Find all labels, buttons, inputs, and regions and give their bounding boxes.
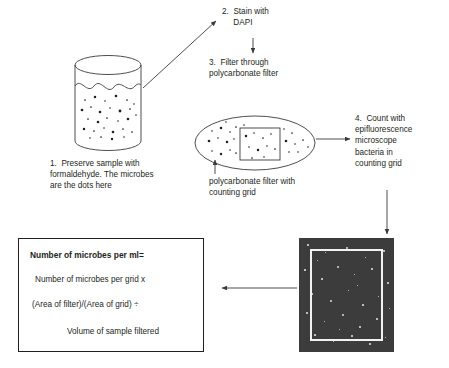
beaker-microbe-dots: [81, 95, 137, 141]
epifluorescence-micrograph: [299, 238, 394, 352]
formula-title: Number of microbes per ml=: [30, 250, 144, 260]
step-1-label: 1. Preserve sample with formaldehyde. Th…: [50, 158, 154, 192]
counting-grid-square: [310, 249, 383, 341]
beaker-illustration: [75, 56, 141, 151]
step-4-label: 4. Count with epifluorescence microscope…: [355, 113, 412, 169]
filter-caption: polycarbonate filter with counting grid: [209, 176, 295, 198]
formula-line-3: Volume of sample filtered: [67, 327, 159, 336]
step-2-label: 2. Stain with DAPI: [222, 6, 269, 28]
polycarbonate-filter-illustration: [195, 116, 315, 170]
formula-box: Number of microbes per ml= Number of mic…: [18, 238, 204, 352]
formula-line-2: (Area of filter)/(Area of grid) ÷: [32, 300, 138, 309]
formula-line-1: Number of microbes per grid x: [35, 275, 145, 284]
step-3-label: 3. Filter through polycarbonate filter: [209, 57, 278, 79]
arrow-beaker-to-step2: [143, 21, 216, 88]
filter-microbe-dots: [208, 121, 309, 159]
diagram-canvas: 2. Stain with DAPI 3. Filter through pol…: [0, 0, 449, 368]
